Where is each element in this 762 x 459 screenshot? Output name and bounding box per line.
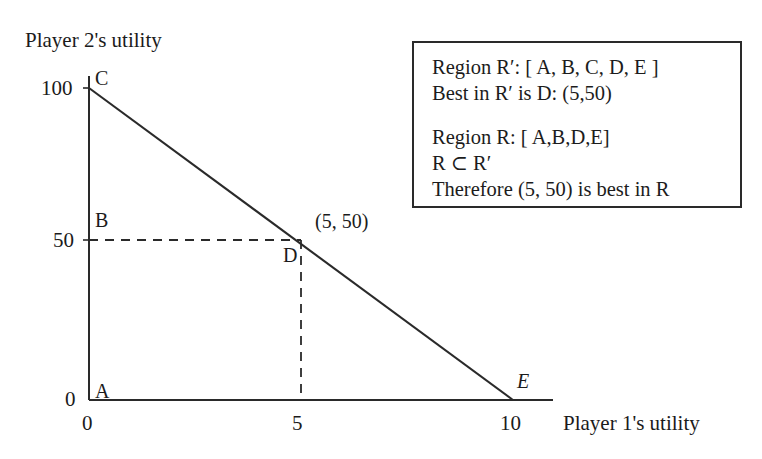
point-label-a: A [95, 381, 109, 401]
annotation-line-5: Therefore (5, 50) is best in R [432, 176, 669, 202]
annotation-line-blank [432, 106, 669, 124]
x-tick-label-5: 5 [292, 413, 303, 434]
annotation-box: Region R′: [ A, B, C, D, E ] Best in R′ … [412, 41, 742, 208]
point-label-b: B [95, 210, 108, 230]
coordinate-annotation: (5, 50) [315, 211, 368, 231]
annotation-line-3: Region R: [ A,B,D,E] [432, 124, 669, 150]
y-tick-label-50: 50 [53, 230, 74, 251]
y-tick-label-0: 0 [65, 389, 76, 410]
annotation-line-4: R ⊂ R′ [432, 150, 669, 176]
annotation-text: Region R′: [ A, B, C, D, E ] Best in R′ … [432, 54, 669, 202]
x-tick-label-0: 0 [82, 413, 93, 434]
point-label-c: C [95, 68, 108, 88]
annotation-line-2: Best in R′ is D: (5,50) [432, 80, 669, 106]
x-tick-label-10: 10 [500, 413, 521, 434]
y-axis-title: Player 2's utility [25, 30, 162, 51]
figure-canvas: Player 2's utility Player 1's utility 10… [0, 0, 762, 459]
point-label-e: E [517, 371, 529, 391]
annotation-line-1: Region R′: [ A, B, C, D, E ] [432, 54, 669, 80]
point-label-d: D [283, 245, 297, 265]
y-tick-label-100: 100 [41, 78, 73, 99]
x-axis-title: Player 1's utility [563, 413, 700, 434]
